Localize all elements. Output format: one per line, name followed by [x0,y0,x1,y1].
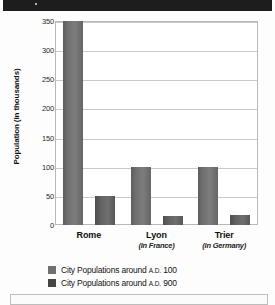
y-tick-label: 50 [30,192,54,201]
gridline [56,51,257,52]
y-tick-label: 150 [30,134,54,143]
x-category-label: Trier(in Germany) [184,230,264,250]
legend-item[interactable]: City Populations around A.D. 900 [48,276,248,289]
legend-item[interactable]: City Populations around A.D. 100 [48,263,248,276]
y-tick-label: 100 [30,163,54,172]
gridline [56,80,257,81]
gridline [56,139,257,140]
y-tick-label: 300 [30,46,54,55]
chart-figure: Population (in thousands) 05010015020025… [0,0,275,305]
gridline [56,168,257,169]
x-category-subtitle: (in Germany) [184,241,264,250]
banner-dot-icon [35,3,37,5]
gridline [56,109,257,110]
plot-area [55,21,258,225]
bottom-rule-box [10,294,268,305]
x-category-name: Trier [184,230,264,240]
y-tick-label: 200 [30,104,54,113]
legend-label: City Populations around A.D. 900 [61,278,177,288]
top-banner [3,0,272,11]
y-axis-title: Population (in thousands) [12,57,21,177]
gridline [56,22,257,23]
chart-legend: City Populations around A.D. 100 City Po… [48,263,248,289]
legend-label: City Populations around A.D. 100 [61,265,177,275]
legend-swatch-icon [48,279,56,287]
y-tick-label: 350 [30,17,54,26]
legend-swatch-icon [48,266,56,274]
y-tick-label: 0 [30,221,54,230]
gridline [56,197,257,198]
y-tick-label: 250 [30,75,54,84]
